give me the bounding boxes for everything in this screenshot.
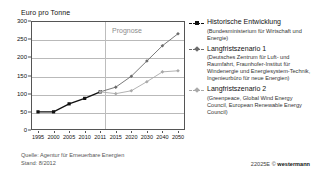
y-tick-label: 250 [17, 36, 27, 42]
x-tick-mark [131, 131, 132, 133]
y-tick-label: 100 [17, 91, 27, 97]
x-tick-label: 2015 [110, 134, 122, 140]
legend-label: Historische Entwicklung [207, 18, 281, 27]
y-axis-title: Euro pro Tonne [21, 9, 70, 16]
publisher-name: westermann [277, 161, 310, 167]
source-note: Quelle: Agentur für Erneuerbare Energien… [21, 152, 124, 167]
data-point-marker [68, 102, 71, 105]
y-axis-ticks: 300 250 200 150 100 50 0 [0, 21, 31, 130]
copyright-symbol: © [272, 161, 276, 167]
legend-sublabel: (Greenpeace, Global Wind Energy Council,… [207, 95, 313, 116]
x-tick-label: 2050 [172, 134, 184, 140]
y-tick-label: 0 [24, 127, 27, 133]
legend-sublabel: (Bundesministerium für Wirtschaft und En… [207, 28, 313, 42]
data-point-marker [36, 110, 39, 113]
legend-marker-icon [189, 19, 204, 27]
legend-item-historische-entwicklung[interactable]: Historische Entwicklung (Bundesministeri… [189, 18, 313, 42]
x-tick-mark [38, 131, 39, 133]
source-line-1: Quelle: Agentur für Erneuerbare Energien [21, 152, 124, 160]
x-tick-mark [116, 131, 117, 133]
data-point-marker [130, 89, 134, 93]
x-tick-label: 2030 [141, 134, 153, 140]
x-tick-label: 2005 [63, 134, 75, 140]
x-tick-label: 2040 [156, 134, 168, 140]
data-point-marker [114, 92, 118, 96]
x-tick-label: 2000 [47, 134, 59, 140]
data-point-marker [83, 97, 86, 100]
legend-item-langfristszenario-1[interactable]: Langfristszenario 1 (Deutsches Zentrum f… [189, 45, 313, 83]
series-line [38, 92, 100, 112]
x-tick-mark [69, 131, 70, 133]
x-tick-mark [178, 131, 179, 133]
x-tick-label: 2010 [79, 134, 91, 140]
publisher-credit: 22025E © westermann [251, 161, 310, 167]
legend-label: Langfristszenario 1 [207, 45, 266, 54]
x-tick-mark [85, 131, 86, 133]
y-tick-label: 150 [17, 73, 27, 79]
series-line [100, 34, 178, 92]
y-tick-label: 200 [17, 54, 27, 60]
y-tick-label: 300 [17, 18, 27, 24]
legend-marker-icon [189, 86, 204, 94]
x-tick-mark [54, 131, 55, 133]
legend-item-langfristszenario-2[interactable]: Langfristszenario 2 (Greenpeace, Global … [189, 85, 313, 116]
chart-legend: Historische Entwicklung (Bundesministeri… [189, 18, 313, 119]
x-tick-label: 2011 [94, 134, 106, 140]
x-tick-mark [100, 131, 101, 133]
x-tick-label: 2020 [125, 134, 137, 140]
legend-marker-icon [189, 46, 204, 54]
chart-figure: Euro pro Tonne 300 250 200 150 100 50 0 … [0, 0, 315, 177]
source-line-2: Stand: 8/2012 [21, 160, 124, 168]
legend-label: Langfristszenario 2 [207, 85, 266, 94]
x-tick-mark [162, 131, 163, 133]
data-point-marker [52, 110, 55, 113]
figure-code: 22025E [251, 161, 270, 167]
data-point-marker [176, 69, 180, 73]
x-tick-mark [147, 131, 148, 133]
series-layer [31, 21, 185, 130]
series-line [100, 71, 178, 94]
x-tick-label: 1995 [32, 134, 44, 140]
legend-sublabel: (Deutsches Zentrum für Luft- und Raumfah… [207, 54, 313, 82]
y-tick-label: 50 [20, 109, 27, 115]
x-axis-ticks: 1995200020052010201120152020203020402050 [31, 131, 185, 143]
